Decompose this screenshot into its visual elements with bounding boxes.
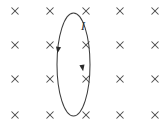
field-x-icon — [152, 76, 159, 83]
field-x-icon — [152, 112, 159, 119]
field-x-icon — [47, 112, 54, 119]
physics-figure-current-loop-in-field: I — [0, 0, 163, 132]
field-x-icon — [47, 76, 54, 83]
field-x-icon — [12, 112, 19, 119]
field-x-icon — [12, 42, 19, 49]
field-x-icon — [47, 8, 54, 15]
field-x-icon — [83, 112, 90, 119]
field-x-icon — [12, 76, 19, 83]
field-x-icon — [152, 42, 159, 49]
field-x-icon — [12, 8, 19, 15]
field-x-icon — [117, 76, 124, 83]
field-x-icon — [83, 8, 90, 15]
field-x-icon — [117, 8, 124, 15]
field-x-icon — [152, 8, 159, 15]
field-x-icon — [83, 76, 90, 83]
field-x-icon — [47, 42, 54, 49]
field-x-icon — [117, 112, 124, 119]
current-direction-arrowheads-group — [55, 46, 86, 71]
current-loop-ellipse — [57, 13, 90, 116]
field-x-icon — [117, 42, 124, 49]
current-arrowhead-icon — [79, 64, 85, 71]
current-loop-group — [57, 13, 90, 116]
current-arrowhead-icon — [55, 46, 61, 53]
current-label: I — [81, 20, 85, 32]
